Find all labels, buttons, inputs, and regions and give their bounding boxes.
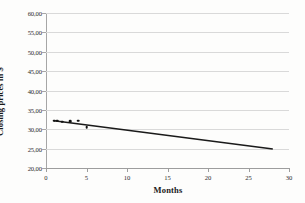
scatter-chart-figure: Closing prices in $ 20,0025,0030,0035,00… [0, 0, 305, 203]
y-tick-mark [42, 110, 46, 111]
y-tick-mark [42, 32, 46, 33]
trendline [54, 121, 273, 149]
data-point [77, 119, 80, 122]
y-tick-mark [42, 168, 46, 169]
x-tick-mark [168, 169, 169, 172]
y-tick-mark [42, 13, 46, 14]
y-tick-mark [42, 71, 46, 72]
y-tick-mark [42, 52, 46, 53]
x-axis-title: Months [46, 185, 290, 195]
data-point [69, 120, 72, 123]
x-tick-label: 20 [205, 174, 212, 181]
data-point [56, 119, 59, 122]
data-point [85, 126, 88, 129]
x-tick-label: 10 [124, 174, 131, 181]
y-tick-label: 50,00 [16, 48, 42, 55]
data-point [53, 119, 56, 122]
x-tick-mark [289, 169, 290, 172]
plot-area [46, 13, 289, 168]
y-tick-label: 55,00 [16, 29, 42, 36]
y-axis-tick-labels: 20,0025,0030,0035,0040,0045,0050,0055,00… [16, 0, 42, 203]
data-point [61, 120, 64, 123]
y-tick-mark [42, 91, 46, 92]
x-tick-label: 5 [85, 174, 88, 181]
data-series-layer [46, 13, 289, 168]
y-tick-mark [42, 129, 46, 130]
x-tick-mark [46, 169, 47, 172]
y-tick-label: 35,00 [16, 106, 42, 113]
x-tick-mark [249, 169, 250, 172]
x-tick-label: 0 [44, 174, 47, 181]
y-tick-label: 20,00 [16, 165, 42, 172]
y-tick-label: 25,00 [16, 145, 42, 152]
y-tick-label: 45,00 [16, 68, 42, 75]
y-tick-label: 60,00 [16, 10, 42, 17]
x-tick-label: 30 [286, 174, 293, 181]
x-tick-label: 25 [245, 174, 252, 181]
y-tick-label: 40,00 [16, 87, 42, 94]
x-tick-mark [208, 169, 209, 172]
x-tick-mark [127, 169, 128, 172]
y-tick-label: 30,00 [16, 126, 42, 133]
x-tick-mark [87, 169, 88, 172]
x-tick-label: 15 [164, 174, 171, 181]
y-tick-mark [42, 149, 46, 150]
